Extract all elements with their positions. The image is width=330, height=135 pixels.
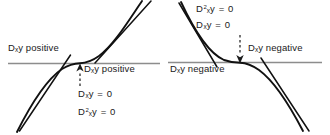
left-label-second-derivative-zero: D2xy = 0 <box>78 106 116 117</box>
right-label-upper-rest: y negative <box>258 42 302 53</box>
left-label-lower-base: D <box>84 63 91 74</box>
left-label-first-derivative-zero: Dxy = 0 <box>78 88 113 99</box>
right-label-upper-base: D <box>248 42 255 53</box>
left-d1-rest: y = 0 <box>89 88 113 99</box>
left-arrowhead-up <box>76 64 83 72</box>
right-label-lower-base: D <box>170 63 177 74</box>
left-d2-rest: y = 0 <box>92 106 116 117</box>
figure-container: Dxy positive Dxy positive Dxy = 0 D2xy =… <box>0 0 330 135</box>
left-label-dxy-positive-lower: Dxy positive <box>84 63 135 74</box>
right-d2-rest: y = 0 <box>210 3 234 14</box>
left-label-dxy-positive-upper: Dxy positive <box>8 42 59 53</box>
left-label-upper-base: D <box>8 42 15 53</box>
right-label-dxy-negative-upper: Dxy negative <box>248 42 303 53</box>
left-label-lower-rest: y positive <box>94 63 135 74</box>
left-tangent-line-upper <box>95 1 151 63</box>
left-tangent-line-lower <box>20 55 71 131</box>
right-tangent-line-lower <box>261 58 309 131</box>
figure-canvas <box>0 0 330 135</box>
right-label-first-derivative-zero: Dxy = 0 <box>196 19 231 30</box>
right-d1-rest: y = 0 <box>207 19 231 30</box>
right-label-lower-rest: y negative <box>180 63 224 74</box>
left-label-upper-rest: y positive <box>18 42 59 53</box>
right-label-second-derivative-zero: D2xy = 0 <box>196 3 234 14</box>
right-label-dxy-negative-lower: Dxy negative <box>170 63 225 74</box>
